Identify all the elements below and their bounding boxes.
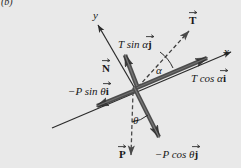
x-axis-label: x <box>224 46 229 57</box>
vector-N-label: N <box>102 62 110 74</box>
t-sin-unit-vector: j <box>148 38 152 50</box>
p-sin-unit-vector: i <box>106 85 109 97</box>
component-minus-P-cos-theta-j <box>134 87 159 137</box>
t-cos-coefficient: T cos <box>191 72 217 84</box>
vector-P-label: P <box>119 148 126 160</box>
component-label-minus-P-sin-theta-i: −P sin θi <box>68 85 109 97</box>
vector-T-label: T <box>189 14 196 26</box>
p-cos-unit-vector: j <box>195 148 199 160</box>
panel-label: (b) <box>1 0 13 7</box>
y-axis-label: y <box>93 10 98 21</box>
p-sin-coefficient: −P sin <box>68 85 100 97</box>
vector-P-symbol: P <box>119 148 126 160</box>
force-diagram-figure: (b) y x T N P T sin αj T cos αi −P sin θ… <box>0 0 241 168</box>
p-cos-coefficient: −P cos <box>155 148 189 160</box>
t-sin-coefficient: T sin <box>118 38 142 50</box>
component-label-minus-P-cos-theta-j: −P cos θj <box>155 148 198 160</box>
diagram-canvas <box>0 0 241 168</box>
component-label-T-cos-alpha-i: T cos αi <box>191 72 226 84</box>
vector-N-symbol: N <box>102 62 110 74</box>
vector-T-symbol: T <box>189 14 196 26</box>
t-cos-unit-vector: i <box>223 72 226 84</box>
angle-label-theta: θ <box>133 115 138 126</box>
component-label-T-sin-alpha-j: T sin αj <box>118 38 152 50</box>
angle-label-alpha: α <box>156 65 162 76</box>
